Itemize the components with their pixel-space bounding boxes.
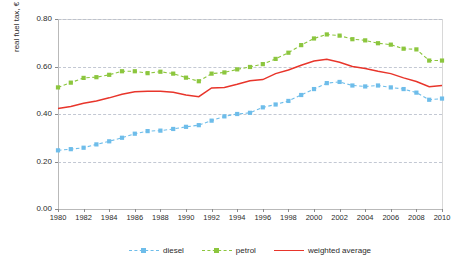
data-point-marker	[414, 91, 418, 95]
legend-item-weighted-average[interactable]: weighted average	[274, 246, 371, 255]
x-tick-mark	[186, 209, 187, 212]
legend-item-diesel[interactable]: diesel	[129, 246, 184, 255]
data-point-marker	[56, 85, 60, 89]
legend-label: weighted average	[308, 246, 371, 255]
y-tick-label: 0.20	[18, 158, 52, 166]
y-tick-label: 0.80	[18, 15, 52, 23]
axis-bottom-spine	[58, 209, 443, 210]
data-point-marker	[274, 57, 278, 61]
data-point-marker	[440, 58, 444, 62]
data-point-marker	[158, 70, 162, 74]
legend-swatch-icon	[129, 246, 159, 255]
x-tick-mark	[288, 209, 289, 212]
data-point-marker	[94, 142, 98, 146]
x-tick-mark	[365, 209, 366, 212]
data-point-marker	[286, 51, 290, 55]
data-point-marker	[299, 43, 303, 47]
data-point-marker	[338, 80, 342, 84]
legend-label: petrol	[236, 246, 256, 255]
data-point-marker	[350, 37, 354, 41]
legend-marker-icon	[141, 248, 146, 253]
data-point-marker	[235, 112, 239, 116]
y-axis-title: real fuel tax, € (2010) per litre	[12, 0, 21, 52]
data-point-marker	[197, 123, 201, 127]
data-point-marker	[107, 139, 111, 143]
y-tick-label: 0.60	[18, 63, 52, 71]
data-point-marker	[94, 75, 98, 79]
series-layer	[58, 19, 442, 209]
data-point-marker	[184, 76, 188, 80]
data-point-marker	[158, 129, 162, 133]
data-point-marker	[197, 79, 201, 83]
x-tick-mark	[314, 209, 315, 212]
data-point-marker	[235, 67, 239, 71]
data-point-marker	[376, 83, 380, 87]
data-point-marker	[184, 125, 188, 129]
data-point-marker	[69, 81, 73, 85]
data-point-marker	[427, 58, 431, 62]
plot-area	[58, 19, 442, 209]
data-point-marker	[376, 41, 380, 45]
data-point-marker	[171, 127, 175, 131]
x-tick-label: 2010	[427, 213, 457, 222]
x-tick-mark	[416, 209, 417, 212]
data-point-marker	[389, 85, 393, 89]
data-point-marker	[248, 65, 252, 69]
data-point-marker	[338, 34, 342, 38]
data-point-marker	[210, 119, 214, 123]
x-tick-mark	[263, 209, 264, 212]
x-tick-mark	[84, 209, 85, 212]
series-line	[58, 34, 442, 87]
data-point-marker	[414, 47, 418, 51]
data-point-marker	[299, 93, 303, 97]
data-point-marker	[171, 72, 175, 76]
x-tick-mark	[58, 209, 59, 212]
data-point-marker	[312, 87, 316, 91]
x-tick-mark	[109, 209, 110, 212]
data-point-marker	[120, 136, 124, 140]
data-point-marker	[222, 114, 226, 118]
series-diesel	[56, 80, 444, 153]
x-tick-mark	[160, 209, 161, 212]
data-point-marker	[69, 147, 73, 151]
axis-right-spine	[442, 19, 443, 209]
data-point-marker	[82, 146, 86, 150]
data-point-marker	[274, 102, 278, 106]
data-point-marker	[312, 36, 316, 40]
legend-item-petrol[interactable]: petrol	[202, 246, 256, 255]
legend-swatch-icon	[202, 246, 232, 255]
y-axis-label-group: real fuel tax, € (2010) per litre	[14, 0, 52, 266]
data-point-marker	[363, 38, 367, 42]
legend-line	[274, 250, 304, 252]
y-tick-label: 0.00	[18, 205, 52, 213]
data-point-marker	[427, 98, 431, 102]
legend-label: diesel	[163, 246, 184, 255]
data-point-marker	[146, 71, 150, 75]
data-point-marker	[261, 62, 265, 66]
data-point-marker	[107, 73, 111, 77]
data-point-marker	[210, 72, 214, 76]
data-point-marker	[120, 69, 124, 73]
data-point-marker	[325, 32, 329, 36]
series-line	[58, 82, 442, 150]
x-tick-mark	[340, 209, 341, 212]
data-point-marker	[222, 70, 226, 74]
data-point-marker	[350, 83, 354, 87]
data-point-marker	[286, 99, 290, 103]
data-point-marker	[402, 47, 406, 51]
x-tick-mark	[391, 209, 392, 212]
legend-marker-icon	[214, 248, 219, 253]
x-tick-mark	[135, 209, 136, 212]
fuel-tax-chart-figure: real fuel tax, € (2010) per litre 0.000.…	[0, 0, 471, 266]
x-tick-mark	[237, 209, 238, 212]
data-point-marker	[56, 148, 60, 152]
data-point-marker	[82, 76, 86, 80]
data-point-marker	[389, 43, 393, 47]
data-point-marker	[133, 69, 137, 73]
data-point-marker	[133, 132, 137, 136]
data-point-marker	[146, 129, 150, 133]
legend-swatch-icon	[274, 246, 304, 255]
data-point-marker	[261, 105, 265, 109]
y-tick-label: 0.40	[18, 110, 52, 118]
data-point-marker	[248, 111, 252, 115]
